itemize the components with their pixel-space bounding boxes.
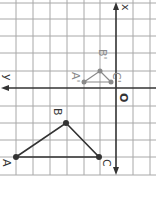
arrow-left-icon xyxy=(1,85,9,91)
vertex-label: C' xyxy=(110,72,123,83)
coordinate-diagram: x y O ABC A'B'C' xyxy=(0,0,156,209)
vertex-label: C xyxy=(100,159,113,167)
vertex-label: A xyxy=(0,159,13,167)
origin-label: O xyxy=(117,93,130,102)
triangle-abc: ABC xyxy=(0,108,113,167)
vertex-point xyxy=(63,120,69,126)
vertex-label: B xyxy=(51,108,64,116)
horizontal-axis-label: y xyxy=(1,74,14,81)
triangle-abc-prime: A'B'C' xyxy=(69,49,123,85)
vertex-label: A' xyxy=(69,72,82,83)
vertex-point xyxy=(98,69,103,74)
arrow-down-icon xyxy=(113,167,119,175)
vertex-label: B' xyxy=(96,49,109,60)
triangle-edges xyxy=(84,71,111,82)
vertical-axis-label: x xyxy=(119,4,132,11)
